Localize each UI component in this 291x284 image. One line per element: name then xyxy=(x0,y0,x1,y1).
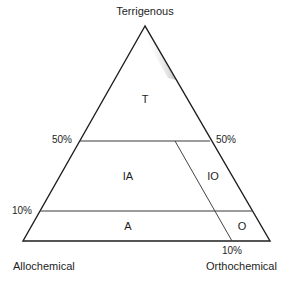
percent-label-right-50: 50% xyxy=(216,134,236,145)
field-label-IO: IO xyxy=(207,170,219,182)
percent-label-left-50: 50% xyxy=(52,134,72,145)
vertex-label-allochemical: Allochemical xyxy=(13,260,75,272)
vertex-label-orthochemical: Orthochemical xyxy=(206,260,277,272)
vertex-label-terrigenous: Terrigenous xyxy=(116,5,174,17)
percent-label-bottom-10: 10% xyxy=(222,245,242,256)
field-label-A: A xyxy=(124,220,132,232)
ternary-diagram: Terrigenous Allochemical Orthochemical 5… xyxy=(0,0,291,284)
percent-label-left-10: 10% xyxy=(12,205,32,216)
allochem-orthochem-divider xyxy=(175,141,232,241)
field-label-O: O xyxy=(238,220,247,232)
field-label-IA: IA xyxy=(123,170,134,182)
field-label-T: T xyxy=(142,93,149,105)
